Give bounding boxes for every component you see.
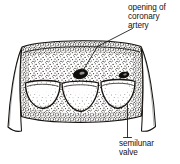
opening-of-coronary-artery-label: opening of coronary artery	[128, 3, 166, 31]
semilunar-valve-label: semilunar valve	[119, 139, 154, 157]
label-line: opening of	[128, 3, 166, 12]
cut-flap-left	[8, 48, 22, 131]
label-line: semilunar	[119, 139, 154, 148]
label-line: coronary	[128, 12, 166, 21]
semilunar-valve-figure: opening of coronary artery semilunar val…	[0, 0, 180, 164]
label-line: artery	[128, 21, 166, 30]
cut-flap-right	[142, 48, 156, 132]
label-line: valve	[119, 148, 154, 157]
